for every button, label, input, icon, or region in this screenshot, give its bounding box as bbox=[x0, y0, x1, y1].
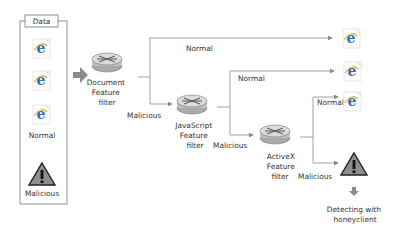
data-normal-label: Normal bbox=[29, 131, 56, 140]
ie-document-icon bbox=[33, 71, 50, 90]
ie-document-icon bbox=[344, 62, 361, 81]
edge-label-js-normal: Normal bbox=[238, 74, 265, 83]
edge-label-ax-normal: Normal bbox=[317, 98, 344, 107]
ie-document-icon bbox=[33, 39, 50, 58]
edge-label-ax-malicious: Malicious bbox=[298, 172, 332, 181]
document-filter-label: Document Feature filter bbox=[87, 78, 128, 107]
ie-document-icon bbox=[344, 92, 361, 111]
data-malicious-label: Malicious bbox=[25, 189, 59, 198]
edge-label-doc-malicious: Malicious bbox=[127, 111, 161, 120]
ie-document-icon bbox=[33, 105, 50, 124]
javascript-filter-label: JavaScript Feature filter bbox=[174, 121, 214, 150]
ie-document-icon bbox=[343, 29, 360, 48]
diagram: e Data Normal Malicious Document Featur bbox=[0, 0, 407, 237]
warning-icon bbox=[341, 153, 367, 175]
detect-label: Detecting with honeyclient bbox=[327, 205, 383, 224]
warning-icon bbox=[29, 163, 55, 185]
data-box-title: Data bbox=[33, 17, 51, 26]
activex-filter-label: ActiveX Feature filter bbox=[267, 152, 297, 181]
router-icon bbox=[92, 53, 122, 72]
router-icon bbox=[260, 125, 290, 144]
data-box: Data Normal Malicious bbox=[20, 15, 67, 204]
down-arrow-icon bbox=[349, 187, 359, 196]
router-icon bbox=[177, 95, 207, 114]
edge-label-doc-normal: Normal bbox=[186, 44, 213, 53]
edge-label-js-malicious: Malicious bbox=[213, 141, 247, 150]
